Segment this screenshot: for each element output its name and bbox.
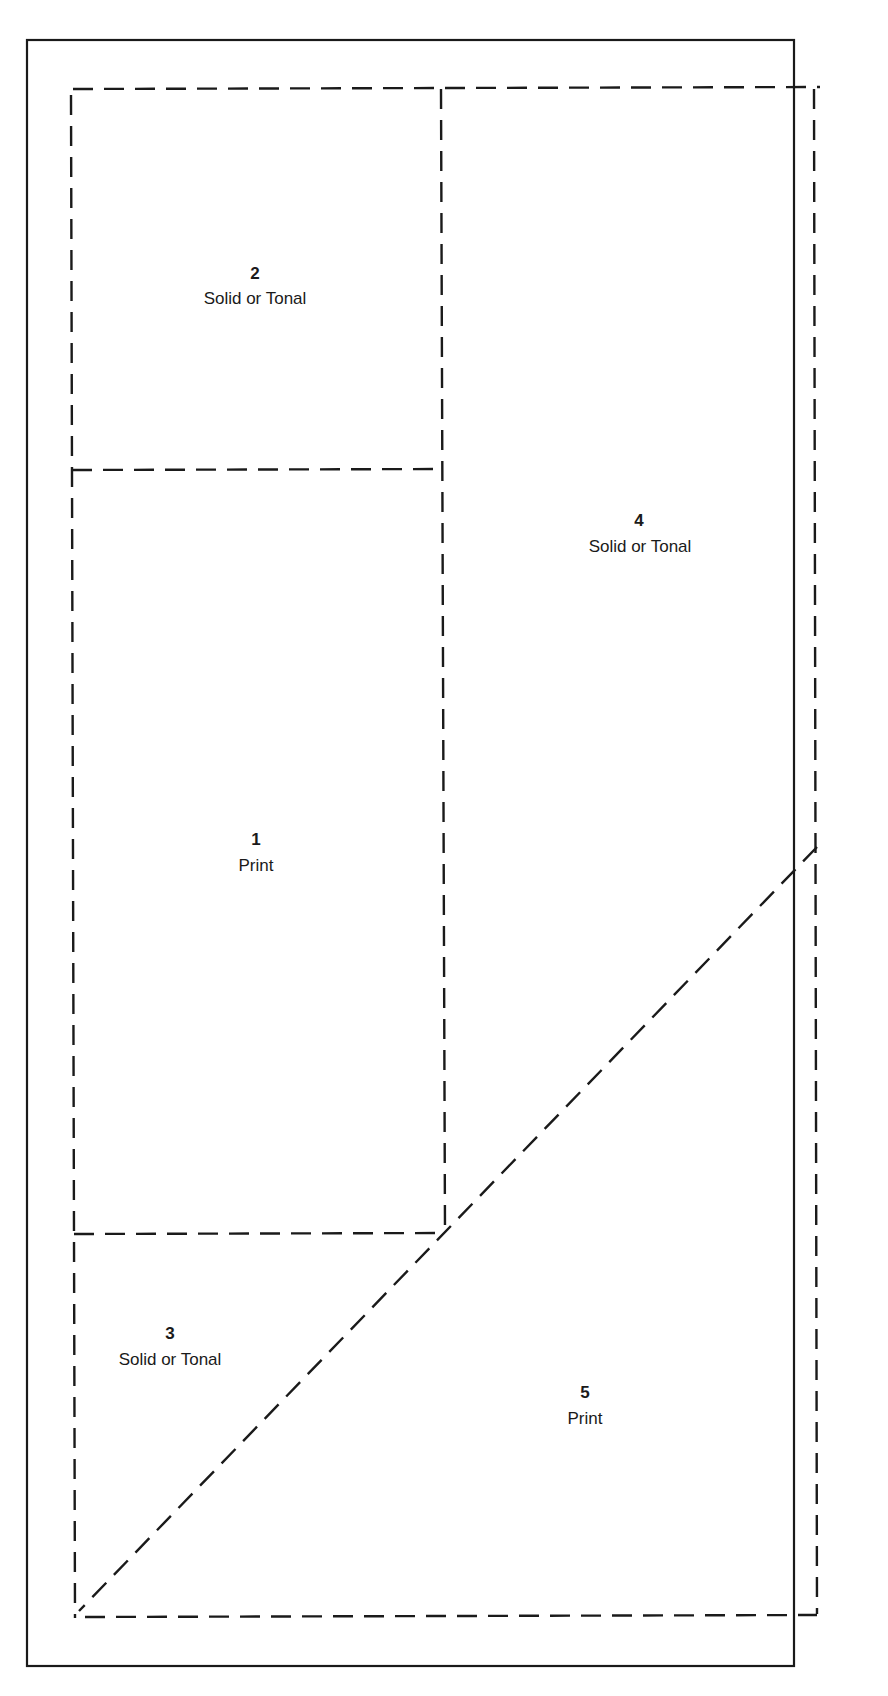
region-1: 1 Print — [239, 830, 274, 875]
boundary-top — [73, 87, 820, 89]
region-1-label: Print — [239, 856, 274, 875]
region-3-number: 3 — [165, 1324, 174, 1343]
region-4-label: Solid or Tonal — [589, 537, 692, 556]
region-3-label: Solid or Tonal — [119, 1350, 222, 1369]
region-4-number: 4 — [634, 511, 644, 530]
region-3: 3 Solid or Tonal — [119, 1324, 222, 1369]
boundary-right — [814, 89, 817, 1614]
divider-vertical — [441, 89, 445, 1233]
boundary-left — [71, 95, 75, 1618]
outer-frame — [27, 40, 794, 1666]
region-1-number: 1 — [251, 830, 260, 849]
region-5: 5 Print — [568, 1383, 603, 1428]
region-2: 2 Solid or Tonal — [204, 264, 307, 308]
region-5-number: 5 — [580, 1383, 589, 1402]
region-2-label: Solid or Tonal — [204, 289, 307, 308]
region-4: 4 Solid or Tonal — [589, 511, 692, 556]
divider-region-1-3 — [74, 1233, 445, 1234]
region-5-label: Print — [568, 1409, 603, 1428]
boundary-bottom — [85, 1615, 817, 1617]
layout-diagram: 2 Solid or Tonal 4 Solid or Tonal 1 Prin… — [0, 0, 888, 1696]
divider-region-2-1 — [72, 469, 441, 470]
region-2-number: 2 — [250, 264, 259, 283]
divider-diagonal — [79, 847, 817, 1611]
